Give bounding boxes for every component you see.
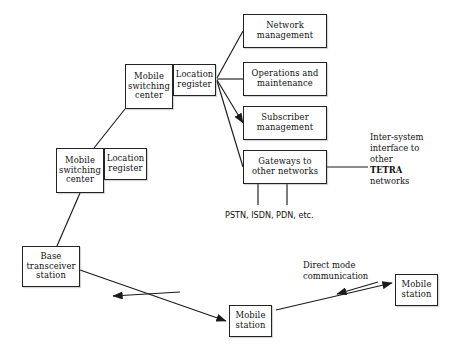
label-line: other xyxy=(370,154,393,164)
edge-location-register-to-subscriber-management xyxy=(217,80,243,123)
label-line: Inter-system xyxy=(370,132,423,142)
node-location-register-top: Location register xyxy=(173,64,216,96)
edge-mobile-station-to-mobile-station-forward xyxy=(276,283,392,310)
node-label: Base transceiver station xyxy=(24,252,77,282)
edge-msc-bottom-to-msc-top xyxy=(94,109,125,148)
edge-location-register-to-gateways xyxy=(217,81,243,167)
label-line: interface to xyxy=(370,143,419,153)
node-mobile-station-right: Mobile station xyxy=(395,274,438,306)
node-location-register-bottom: Location register xyxy=(104,148,147,180)
edge-base-station-to-mobile-station-uplink xyxy=(113,292,180,296)
node-mobile-switching-center-bottom: Mobile switching center xyxy=(56,148,104,193)
node-label: Gateways to other networks xyxy=(250,157,320,177)
node-network-management: Network management xyxy=(243,14,327,48)
node-label: Mobile station xyxy=(234,311,268,331)
label-inter-system-interface: Inter-systeminterface tootherTETRAnetwor… xyxy=(370,132,423,187)
node-label: Mobile station xyxy=(400,280,434,300)
edge-location-register-to-network-management xyxy=(217,31,243,78)
node-label: Subscriber management xyxy=(255,113,315,133)
node-mobile-switching-center-top: Mobile switching center xyxy=(125,64,173,109)
edge-msc-bottom-to-base-transceiver-station xyxy=(57,193,80,246)
node-label: Location register xyxy=(105,154,147,174)
node-mobile-station-center: Mobile station xyxy=(229,305,272,337)
label-external-networks: PSTN, ISDN, PDN, etc. xyxy=(225,210,314,221)
node-operations-maintenance: Operations and maintenance xyxy=(243,62,327,96)
node-base-transceiver-station: Base transceiver station xyxy=(22,246,80,287)
edge-base-station-to-mobile-station-downlink xyxy=(80,270,226,321)
node-gateways-other-networks: Gateways to other networks xyxy=(243,150,327,184)
label-line: networks xyxy=(370,176,409,186)
node-label: Mobile switching center xyxy=(126,72,172,102)
label-direct-mode-communication: Direct mode communication xyxy=(303,260,368,282)
node-subscriber-management: Subscriber management xyxy=(243,106,327,140)
node-label: Operations and maintenance xyxy=(250,69,321,89)
label-line: TETRA xyxy=(370,165,402,175)
tetra-network-diagram: Network managementOperations and mainten… xyxy=(0,0,455,347)
node-label: Location register xyxy=(174,70,216,90)
node-label: Mobile switching center xyxy=(57,156,103,186)
node-label: Network management xyxy=(255,21,315,41)
